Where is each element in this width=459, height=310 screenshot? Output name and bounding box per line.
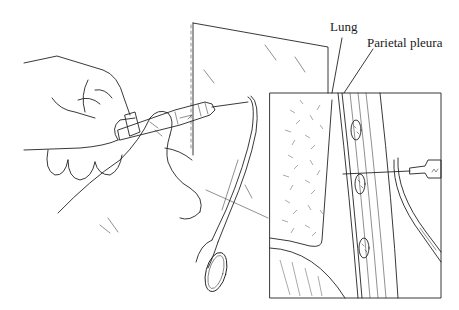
- lung-leader-line: [332, 38, 342, 93]
- label-parietal-pleura: Parietal pleura: [367, 36, 442, 49]
- pleura-leader-line: [344, 49, 373, 93]
- inset-needle: [343, 171, 410, 174]
- drape: [191, 23, 328, 218]
- thoracentesis-illustration: Lung Parietal pleura: [0, 0, 459, 310]
- label-lung: Lung: [330, 20, 357, 33]
- inset-cross-section: [270, 93, 441, 298]
- clamp: [196, 96, 257, 294]
- right-hand: [58, 111, 201, 233]
- lung-tissue-texture: [282, 100, 323, 236]
- needle: [212, 102, 248, 107]
- syringe: [118, 102, 248, 140]
